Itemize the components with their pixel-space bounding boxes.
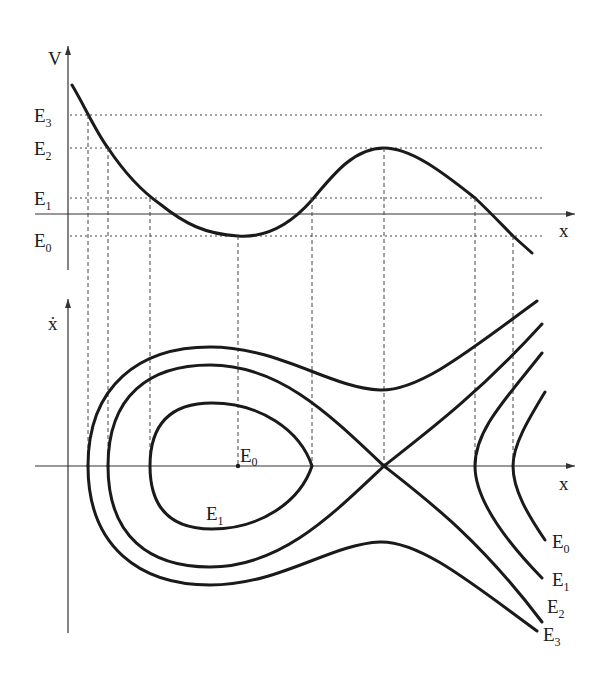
separatrix-e2-lower [108,466,542,622]
level-e1-label: E1 [34,188,52,213]
trajectory-e3-lower [88,466,537,631]
x-axis-label-bottom: x [559,473,569,494]
orbit-e1-label: E1 [206,503,224,528]
center-label: E0 [240,445,258,469]
potential-curve [72,85,532,253]
potential-panel: V x E3 E2 E1 E0 [34,46,575,270]
level-e3-label: E3 [34,105,52,130]
curve-label-e1: E1 [552,569,570,594]
curve-label-e3: E3 [543,624,561,649]
level-e2-label: E2 [34,138,52,163]
x-axis-label-top: x [559,220,569,241]
phase-portrait-panel: ẋ x E0 E1 E0 E1 E2 E3 [35,299,575,649]
figure-canvas: V x E3 E2 E1 E0 ẋ x [0,0,600,682]
curve-label-e2: E2 [547,596,565,621]
xdot-axis-label: ẋ [48,313,58,334]
v-axis-label: V [48,48,62,69]
level-e0-label: E0 [34,230,52,255]
curve-label-e0: E0 [552,531,570,556]
